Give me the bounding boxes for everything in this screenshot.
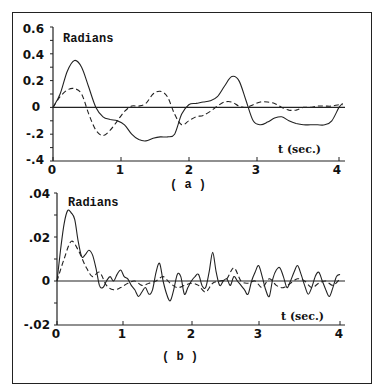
y-tick-label: 0 [42, 274, 50, 288]
y-tick-label: -.4 [26, 153, 44, 167]
y-tick-label: .02 [29, 231, 50, 245]
panel-b-lines [57, 210, 340, 301]
panel-b-x-ticks: 0 1 2 3 4 [52, 327, 343, 341]
y-tick-label: -.2 [26, 127, 44, 141]
x-tick-label: 3 [254, 327, 262, 341]
x-tick-label: 2 [185, 163, 193, 177]
panel-a-axes [50, 27, 345, 161]
x-tick-label: 1 [116, 163, 124, 177]
series-solid-line [53, 60, 343, 141]
panel-a-caption: ( a ) [170, 178, 206, 192]
panel-a-y-ticks: 0.6 0.4 0.2 0 -.2 -.4 [23, 22, 44, 167]
y-tick-label: 0 [32, 100, 40, 114]
panel-a: 0.6 0.4 0.2 0 -.2 -.4 0 1 2 3 4 Radians … [23, 22, 345, 192]
panel-a-x-ticks: 0 1 2 3 4 [48, 163, 341, 177]
panel-b: .04 .02 0 -.02 0 1 2 3 4 Radians t (sec.… [24, 187, 345, 364]
y-tick-label: -.02 [24, 318, 50, 332]
panel-b-y-axis-title: Radians [68, 196, 118, 210]
panel-b-caption: ( b ) [162, 350, 198, 364]
panel-b-y-ticks: .04 .02 0 -.02 [24, 187, 50, 332]
series-solid-line [57, 210, 340, 301]
series-dashed-line [53, 88, 343, 135]
x-tick-label: 3 [252, 163, 260, 177]
x-tick-label: 1 [118, 327, 126, 341]
panel-a-y-axis-title: Radians [63, 32, 113, 46]
figure-canvas: 0.6 0.4 0.2 0 -.2 -.4 0 1 2 3 4 Radians … [0, 0, 381, 388]
y-tick-label: 0.4 [23, 48, 44, 62]
x-tick-label: 0 [52, 327, 60, 341]
panel-b-axes [54, 193, 345, 325]
panel-b-x-axis-title: t (sec.) [281, 310, 324, 323]
x-tick-label: 2 [187, 327, 195, 341]
y-tick-label: 0.6 [23, 22, 44, 36]
y-tick-label: .04 [29, 187, 50, 201]
y-tick-label: 0.2 [23, 74, 44, 88]
panel-a-x-axis-title: t (sec.) [278, 143, 321, 156]
x-tick-label: 4 [333, 163, 341, 177]
x-tick-label: 0 [48, 163, 56, 177]
panel-a-lines [53, 60, 343, 141]
x-tick-label: 4 [335, 327, 343, 341]
